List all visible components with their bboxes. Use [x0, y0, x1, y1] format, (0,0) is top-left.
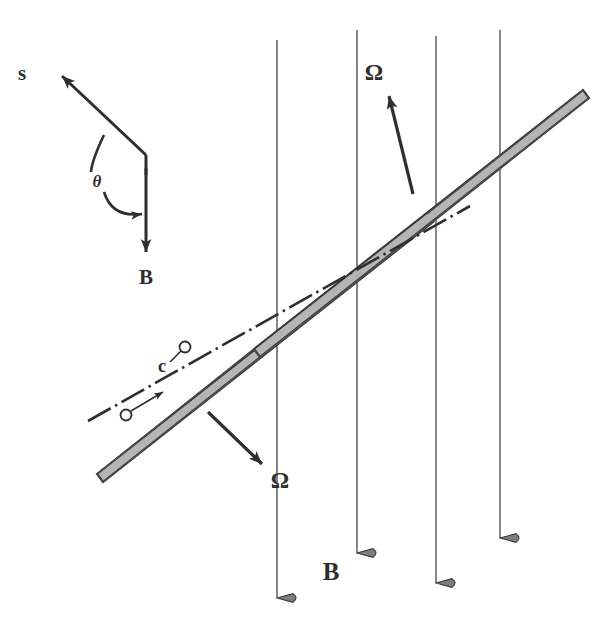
slab-top-face — [103, 98, 589, 482]
label-s: s — [18, 61, 26, 85]
physics-diagram: s B θ Ω Ω c B — [0, 0, 614, 637]
label-omega-bottom: Ω — [271, 468, 289, 493]
label-c-axis: c — [158, 356, 166, 376]
theta-arc-lower — [104, 192, 142, 215]
omega-top-arrow — [389, 96, 413, 194]
slab-edge-upper-long — [254, 90, 589, 357]
label-b-field: B — [323, 558, 340, 585]
label-b-inset: B — [139, 265, 153, 289]
rotating-slab — [97, 90, 596, 492]
label-theta: θ — [93, 172, 102, 191]
c-axis-marker-upper — [180, 342, 191, 353]
omega-bottom-arrow — [208, 412, 262, 464]
c-marker-connector-upper — [170, 351, 181, 362]
omega-bottom-vector — [208, 412, 262, 464]
label-omega-top: Ω — [365, 60, 383, 85]
theta-arc-upper — [91, 135, 104, 172]
s-vector-arrow — [62, 76, 146, 155]
omega-top-vector — [389, 96, 413, 194]
angle-inset — [62, 76, 146, 252]
c-axis-marker-lower — [121, 410, 132, 421]
